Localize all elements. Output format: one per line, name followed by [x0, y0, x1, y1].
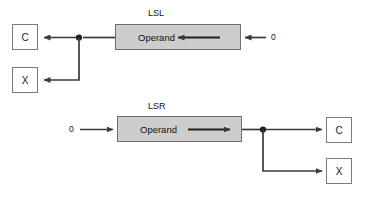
shift-operations-diagram: LSL C X Operand 0 LSR 0 Operand C X — [0, 0, 368, 199]
lsl-junction-to-x-arrow — [44, 38, 79, 81]
connector-lines — [0, 0, 368, 199]
lsr-junction-to-x-arrow — [263, 130, 322, 172]
